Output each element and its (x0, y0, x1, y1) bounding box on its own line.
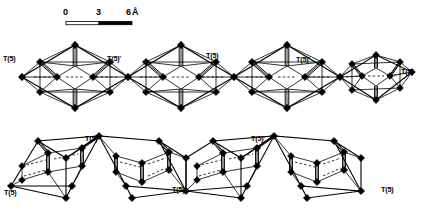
scale-bar (66, 22, 132, 25)
scale-label-6: 6 (126, 8, 131, 17)
t-node (237, 194, 244, 201)
t-node (122, 182, 129, 189)
polyhedron-unit-top-1 (18, 41, 128, 112)
t-node (313, 178, 320, 185)
scale-bar-segment-filled (99, 22, 132, 25)
t-node (18, 73, 25, 81)
label-t5-prime-top-2: T(5)' (107, 55, 121, 63)
t-node (62, 154, 69, 161)
label-t5-prime-top-4: T(5)' (296, 56, 310, 64)
t-node (373, 51, 380, 58)
label-t5-bottom-1: T(5) (4, 189, 16, 197)
t-node-joint (230, 73, 237, 81)
label-t5-top-1: T(5) (3, 55, 15, 63)
label-t5-prime-bottom-2: T(5)' (85, 135, 99, 143)
bottom-chain (7, 132, 364, 201)
t-node (283, 104, 290, 112)
t-node (71, 41, 78, 49)
scale-label-0: 0 (63, 8, 68, 17)
t-node (243, 182, 250, 189)
t-node (313, 159, 320, 166)
label-t5-top-3: T(5) (206, 52, 218, 60)
polyhedron-unit-bottom-4 (274, 136, 365, 202)
t-node (19, 177, 26, 184)
t-node (62, 194, 69, 201)
t-node (68, 182, 75, 189)
scale-bar-segment-open (66, 22, 99, 25)
t-node (44, 168, 51, 175)
t-node (219, 168, 226, 175)
t-node (303, 194, 310, 201)
t-node (128, 194, 135, 201)
t-node-joint (124, 73, 131, 81)
scale-label-3: 3 (96, 8, 101, 17)
t-node (138, 178, 145, 185)
scale-unit-angstrom: Å (132, 8, 139, 17)
polyhedron-unit-top-4 (336, 51, 415, 103)
t-node (237, 154, 244, 161)
t-node (71, 104, 78, 112)
label-t5-bottom-3: T(5) (172, 186, 184, 194)
t-node (194, 163, 201, 170)
t-node (288, 169, 295, 176)
t-node (177, 104, 184, 112)
t-node (177, 41, 184, 49)
t-node (113, 169, 120, 176)
t-node (297, 182, 304, 189)
label-t5-prime-bottom-4: T(5)' (251, 135, 265, 143)
t-node (283, 41, 290, 49)
polyhedron-unit-top-3 (230, 41, 340, 112)
structure-figure: .e{stroke:#000;fill:none;} .thin{stroke-… (0, 0, 421, 209)
label-t5-bottom-5: T(5) (381, 186, 393, 194)
label-t5-top-5: T(5) (401, 68, 413, 76)
t-node (138, 159, 145, 166)
t-node (357, 154, 364, 161)
